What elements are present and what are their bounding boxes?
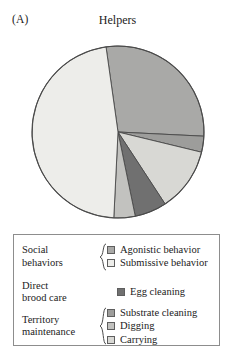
figure-panel-a: (A) Helpers Social behaviors Ago <box>0 0 235 363</box>
legend-swatch-icon <box>107 309 115 317</box>
legend-swatch-icon <box>107 259 115 267</box>
legend-group-label-social-line1: Social <box>22 244 98 256</box>
legend-item-label: Carrying <box>120 334 157 346</box>
chart-title: Helpers <box>0 13 235 28</box>
legend: Social behaviors Agonistic behavior <box>13 234 220 346</box>
legend-item[interactable]: Carrying <box>107 333 219 347</box>
legend-swatch-icon <box>107 322 115 330</box>
legend-swatch-icon <box>117 288 125 296</box>
brace-icon <box>98 243 107 271</box>
pie-slice[interactable] <box>106 46 204 136</box>
legend-item-label: Egg cleaning <box>130 286 185 298</box>
legend-item[interactable]: Submissive behavior <box>107 257 219 271</box>
brace-icon <box>98 307 107 345</box>
legend-group-label-territory: Territory maintenance <box>14 314 98 339</box>
legend-entries-territory: Substrate cleaning Digging Carrying <box>107 306 219 347</box>
legend-item[interactable]: Egg cleaning <box>117 285 219 299</box>
legend-group-label-social: Social behaviors <box>14 244 98 269</box>
legend-group-territory: Territory maintenance Substrate cleaning <box>14 309 219 343</box>
legend-item-label: Submissive behavior <box>120 257 208 269</box>
legend-group-label-brood-care: Direct brood care <box>14 280 98 305</box>
legend-item[interactable]: Substrate cleaning <box>107 306 219 320</box>
legend-entries-social: Agonistic behavior Submissive behavior <box>107 243 219 270</box>
legend-item[interactable]: Digging <box>107 319 219 333</box>
legend-group-label-brood-care-line1: Direct <box>22 280 98 292</box>
legend-group-social: Social behaviors Agonistic behavior <box>14 241 219 272</box>
pie-chart-svg <box>30 44 206 220</box>
legend-item-label: Substrate cleaning <box>120 307 197 319</box>
legend-item-label: Agonistic behavior <box>120 244 200 256</box>
legend-group-label-territory-line2: maintenance <box>22 326 98 338</box>
legend-swatch-icon <box>107 336 115 344</box>
legend-item-label: Digging <box>120 320 154 332</box>
pie-slice[interactable] <box>32 47 118 218</box>
legend-group-label-social-line2: behaviors <box>22 257 98 269</box>
legend-swatch-icon <box>107 246 115 254</box>
legend-entries-brood-care: Egg cleaning <box>107 285 219 299</box>
pie-chart <box>30 44 206 220</box>
legend-group-brood-care: Direct brood care Egg cleaning <box>14 278 219 306</box>
legend-group-label-brood-care-line2: brood care <box>22 292 98 304</box>
legend-inner: Social behaviors Agonistic behavior <box>14 235 219 345</box>
legend-item[interactable]: Agonistic behavior <box>107 243 219 257</box>
legend-group-label-territory-line1: Territory <box>22 314 98 326</box>
